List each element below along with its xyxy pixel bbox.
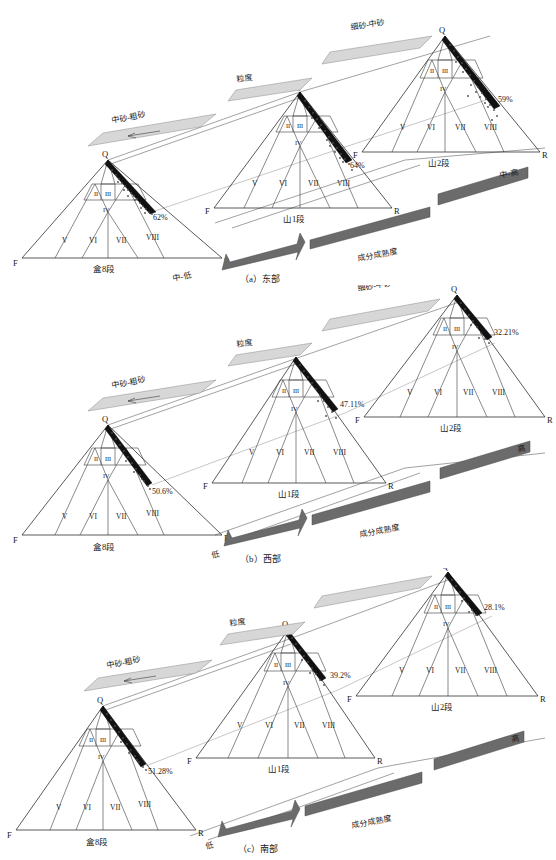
maturity-axis-label: 成分成熟度 <box>357 246 398 263</box>
field-label-ii: II <box>282 387 286 394</box>
percent-label: 32.21% <box>494 328 519 337</box>
trend-dotline-c <box>146 616 492 766</box>
field-label-iii: III <box>454 325 460 332</box>
field-label-viii: VIII <box>484 666 497 675</box>
field-label-viii: VIII <box>322 721 335 730</box>
field-label-vii: VII <box>294 721 305 730</box>
apex-label-f: F <box>13 258 18 268</box>
field-label-iv: IV <box>103 472 110 479</box>
triangle-caption: 盒8段 <box>93 542 115 552</box>
field-label-v: V <box>252 179 258 188</box>
field-label-vi: VI <box>276 448 284 457</box>
apex-label-q: Q <box>97 695 103 705</box>
ternary-triangle-b-1: Q F R II III IV V VI VII VIII 50.6% 盒8段 <box>13 414 230 552</box>
percent-label: 51.28% <box>148 767 173 776</box>
field-label-ii: II <box>430 67 434 74</box>
apex-label-r: R <box>198 828 204 838</box>
field-label-viii: VIII <box>138 800 151 809</box>
field-label-v: V <box>400 123 406 132</box>
apex-label-q: Q <box>102 149 108 159</box>
maturity-high-label: 高 <box>517 443 527 454</box>
grain-size-bar-left-c <box>84 660 212 691</box>
percent-label: 39.2% <box>330 671 351 680</box>
field-label-vii: VII <box>455 123 466 132</box>
field-label-vi: VI <box>89 512 97 521</box>
grain-size-coarse-label: 中砂-粗砂 <box>111 374 147 390</box>
panel-east-canvas: Q F R II III IV V VI VII VIII 62% 盒8段 <box>0 0 556 286</box>
field-label-vii: VII <box>110 803 121 812</box>
triangle-caption: 山1段 <box>268 764 290 774</box>
maturity-high-label: 高 <box>511 733 521 744</box>
apex-label-r: R <box>547 415 553 425</box>
triangle-caption: 山2段 <box>440 423 462 433</box>
field-label-iii: III <box>442 67 448 74</box>
panel-caption: （b）西部 <box>240 553 281 564</box>
apex-label-r: R <box>394 206 400 216</box>
field-label-iv: IV <box>98 753 105 760</box>
grain-size-bar-left-a <box>88 114 216 146</box>
grain-size-fine-label: 细砂-中砂 <box>347 568 383 570</box>
maturity-low-label: 低 <box>211 549 221 560</box>
field-label-vii: VII <box>308 179 319 188</box>
field-label-viii: VIII <box>484 123 497 132</box>
triangle-caption: 盒8段 <box>93 264 115 274</box>
field-label-iv: IV <box>440 85 447 92</box>
field-label-viii: VIII <box>337 179 350 188</box>
field-label-v: V <box>62 236 68 245</box>
field-label-ii: II <box>434 603 438 610</box>
grain-size-bar-right-c <box>314 576 432 608</box>
ternary-triangle-a-1: Q F R II III IV V VI VII VIII 62% 盒8段 <box>13 149 230 274</box>
grain-size-bar-left-b <box>88 380 216 411</box>
grain-size-bar-right-a <box>322 36 432 64</box>
field-label-ii: II <box>94 190 98 197</box>
panel-east: Q F R II III IV V VI VII VIII 62% 盒8段 <box>0 0 556 286</box>
field-label-v: V <box>62 512 68 521</box>
field-label-vi: VI <box>279 179 287 188</box>
maturity-arrow-a <box>222 233 305 270</box>
field-label-v: V <box>237 721 243 730</box>
field-label-iv: IV <box>443 620 450 627</box>
percent-label: 62% <box>153 213 168 222</box>
panel-south: Q F R II III IV V VI VII VIII 51.28% 盒8段 <box>0 568 556 854</box>
apex-label-r: R <box>377 756 383 766</box>
field-label-ii: II <box>94 455 98 462</box>
field-label-iv: IV <box>452 343 459 350</box>
apex-label-f: F <box>203 481 208 491</box>
field-label-iv: IV <box>283 679 290 686</box>
apex-label-f: F <box>13 535 18 545</box>
panel-caption: （a）东部 <box>240 273 280 284</box>
maturity-bar-c <box>305 731 524 816</box>
field-label-iii: III <box>100 736 106 743</box>
field-label-vii: VII <box>455 666 466 675</box>
percent-label: 28.1% <box>484 603 505 612</box>
triangle-caption: 山2段 <box>428 158 450 168</box>
field-label-viii: VIII <box>146 509 159 518</box>
field-label-v: V <box>399 666 405 675</box>
apex-label-q: Q <box>442 568 448 571</box>
field-label-v: V <box>407 388 413 397</box>
field-label-iii: III <box>445 603 451 610</box>
field-label-iii: III <box>297 122 303 129</box>
grain-size-axis-label: 粒度 <box>229 616 246 628</box>
apex-label-f: F <box>355 415 360 425</box>
apex-label-q: Q <box>451 285 457 294</box>
apex-label-r: R <box>388 481 394 491</box>
ternary-triangle-b-2: Q F R II III IV V VI VII VIII 47.11% 山1段 <box>203 346 394 499</box>
field-label-vi: VI <box>265 721 273 730</box>
field-label-iv: IV <box>103 206 110 213</box>
apex-label-f: F <box>347 694 352 704</box>
field-label-iv: IV <box>295 139 302 146</box>
percent-label: 47.11% <box>340 400 365 409</box>
field-label-vii: VII <box>116 236 127 245</box>
apex-label-f: F <box>7 830 12 840</box>
apex-label-q: Q <box>102 414 108 424</box>
grain-size-coarse-label: 中砂-粗砂 <box>106 654 142 670</box>
field-label-iii: III <box>105 190 111 197</box>
field-label-vi: VI <box>434 388 442 397</box>
grain-size-fine-label: 细砂-中砂 <box>357 285 393 293</box>
field-label-vii: VII <box>116 512 127 521</box>
grain-size-coarse-label: 中砂-粗砂 <box>111 109 147 125</box>
apex-label-f: F <box>205 206 210 216</box>
field-label-vi: VI <box>426 666 434 675</box>
panel-west: Q F R II III IV V VI VII VIII 50.6% 盒8段 <box>0 285 556 571</box>
